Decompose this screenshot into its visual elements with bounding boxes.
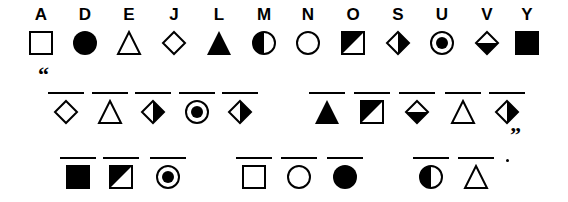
circle-dot-icon: [184, 99, 210, 125]
circle-open-icon: [286, 164, 312, 190]
answer-blank: [48, 92, 84, 94]
key-letter-y: Y: [512, 6, 542, 23]
diamond-right-half-filled-icon: [140, 99, 166, 125]
key-letter-j: J: [159, 6, 189, 23]
key-letter-l: L: [204, 6, 234, 23]
answer-blank: [327, 157, 363, 159]
key-letter-u: U: [427, 6, 457, 23]
square-diagonal-half-icon: [359, 99, 385, 125]
answer-blank: [92, 92, 128, 94]
answer-blank: [489, 92, 525, 94]
answer-blank: [309, 92, 345, 94]
diamond-right-half-filled-icon: [227, 99, 253, 125]
square-open-icon: [28, 30, 54, 56]
triangle-filled-icon: [314, 99, 340, 125]
answer-blank: [281, 157, 317, 159]
diamond-open-icon: [161, 30, 187, 56]
answer-blank: [135, 92, 171, 94]
key-letter-v: V: [472, 6, 502, 23]
answer-blank: [413, 157, 449, 159]
close-quote: ”: [510, 124, 521, 146]
square-open-icon: [241, 164, 267, 190]
square-filled-icon: [514, 30, 540, 56]
circle-open-icon: [295, 30, 321, 56]
answer-blank: [458, 157, 494, 159]
diamond-open-icon: [53, 99, 79, 125]
triangle-open-icon: [97, 99, 123, 125]
answer-blank: [103, 157, 139, 159]
key-letter-a: A: [26, 6, 56, 23]
open-quote: “: [38, 64, 49, 86]
triangle-open-icon: [450, 99, 476, 125]
circle-filled-icon: [332, 164, 358, 190]
answer-blank: [179, 92, 215, 94]
answer-blank: [399, 92, 435, 94]
square-diagonal-half-icon: [108, 164, 134, 190]
key-letter-s: S: [383, 6, 413, 23]
answer-blank: [445, 92, 481, 94]
answer-blank: [60, 157, 96, 159]
answer-blank: [236, 157, 272, 159]
answer-blank: [354, 92, 390, 94]
end-period: [506, 159, 509, 162]
key-letter-n: N: [293, 6, 323, 23]
triangle-filled-icon: [206, 30, 232, 56]
circle-dot-icon: [155, 164, 181, 190]
square-filled-icon: [65, 164, 91, 190]
circle-left-half-filled-icon: [418, 164, 444, 190]
triangle-open-icon: [116, 30, 142, 56]
circle-filled-icon: [72, 30, 98, 56]
diamond-bottom-half-filled-icon: [404, 99, 430, 125]
answer-blank: [150, 157, 186, 159]
key-letter-e: E: [114, 6, 144, 23]
circle-left-half-filled-icon: [251, 30, 277, 56]
key-letter-m: M: [249, 6, 279, 23]
diamond-right-half-filled-icon: [385, 30, 411, 56]
key-letter-o: O: [338, 6, 368, 23]
circle-dot-icon: [429, 30, 455, 56]
key-letter-d: D: [70, 6, 100, 23]
square-diagonal-half-icon: [340, 30, 366, 56]
diamond-bottom-half-filled-icon: [474, 30, 500, 56]
triangle-open-icon: [463, 164, 489, 190]
answer-blank: [222, 92, 258, 94]
